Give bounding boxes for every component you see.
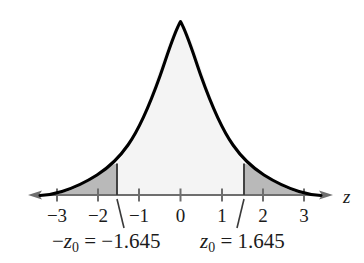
right-label-value: 1.645 <box>237 229 284 253</box>
x-axis-label: z <box>343 187 350 206</box>
tick-label-3: 3 <box>284 206 324 225</box>
right-label-subscript: 0 <box>208 240 215 255</box>
tick-label--2: −2 <box>78 206 118 225</box>
center-region-fill <box>117 22 244 196</box>
tick-label-1: 1 <box>202 206 242 225</box>
tick-label--3: −3 <box>37 206 77 225</box>
critical-value-label-right: z0 = 1.645 <box>200 231 285 252</box>
right-label-variable: z <box>200 229 208 253</box>
left-label-equals: = <box>79 229 101 253</box>
tick-label-0: 0 <box>161 206 201 225</box>
left-label-subscript: 0 <box>72 240 79 255</box>
left-label-variable: z <box>64 229 72 253</box>
critical-value-label-left: −z0 = −1.645 <box>52 231 160 252</box>
tick-label-2: 2 <box>243 206 283 225</box>
normal-distribution-figure: −3 −2 −1 0 1 2 3 z −z0 = −1.645 z0 = 1.6… <box>0 0 364 263</box>
left-label-prefix: − <box>52 229 64 253</box>
tick-label--1: −1 <box>119 206 159 225</box>
left-label-value: −1.645 <box>101 229 160 253</box>
right-label-equals: = <box>215 229 237 253</box>
